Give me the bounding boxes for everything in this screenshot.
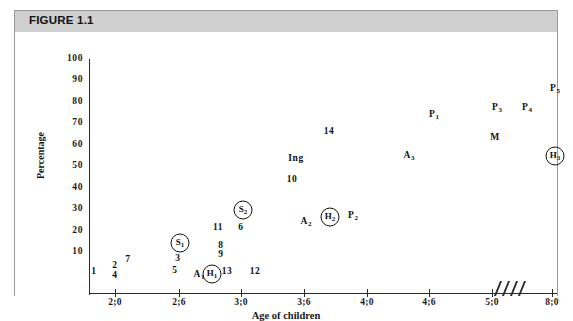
data-point-7: 7 [125,254,130,264]
data-point-P4: P4 [522,102,532,115]
data-point-8: 8 [218,240,223,250]
figure-header-band: FIGURE 1.1 [15,11,557,32]
x-tick-label-8-0: 8;0 [532,297,572,307]
data-point-H2: H2 [321,208,340,227]
data-point-13: 13 [222,266,233,276]
x-tick-mark-2-0 [115,289,116,297]
x-tick-mark-2-6 [179,289,180,297]
y-axis-line [89,59,90,295]
x-tick-label-5-0: 5;0 [472,297,512,307]
x-axis-title: Age of children [15,310,557,321]
y-tick-label-10: 10 [49,246,83,256]
axis-break-icon [493,281,527,295]
data-point-P1: P1 [429,109,439,122]
y-axis-title: Percentage [35,106,46,206]
data-point-P2: P2 [348,210,358,223]
data-point-9: 9 [218,249,223,259]
data-point-6: 6 [238,222,243,232]
plot-area: Percentage Age of children 1009080706050… [15,32,557,296]
data-point-1: 1 [91,266,96,276]
x-tick-mark-4-6 [429,289,430,297]
y-tick-label-50: 50 [49,160,83,170]
data-point-H1: H1 [203,265,222,284]
data-point-H3: H3 [546,147,565,166]
y-tick-label-40: 40 [49,182,83,192]
x-tick-mark-4-0 [367,289,368,297]
data-point-S2: S2 [234,201,253,220]
data-point-A3: A3 [404,150,415,163]
y-tick-label-20: 20 [49,225,83,235]
data-point-14: 14 [324,126,335,136]
y-tick-label-30: 30 [49,203,83,213]
y-tick-label-70: 70 [49,117,83,127]
figure-frame: FIGURE 1.1 Percentage Age of children 10… [14,10,558,296]
data-point-10: 10 [287,174,298,184]
x-tick-label-4-0: 4;0 [347,297,387,307]
x-tick-label-3-6: 3;6 [284,297,324,307]
data-point-12: 12 [250,266,261,276]
x-tick-label-2-6: 2;6 [159,297,199,307]
figure-title: FIGURE 1.1 [29,14,94,26]
data-point-2: 2 [112,260,117,270]
x-tick-label-4-6: 4;6 [409,297,449,307]
x-axis-line [89,293,557,294]
data-point-3: 3 [175,253,180,263]
data-point-P5: P5 [550,83,560,96]
data-point-P3: P3 [492,102,502,115]
x-tick-mark-8-0 [552,289,553,297]
data-point-5: 5 [172,265,177,275]
y-tick-label-80: 80 [49,96,83,106]
y-tick-label-60: 60 [49,139,83,149]
x-tick-label-3-0: 3;0 [221,297,261,307]
y-tick-label-90: 90 [49,74,83,84]
data-point-A2: A2 [301,216,312,229]
y-tick-label-100: 100 [49,53,83,63]
x-tick-label-2-0: 2;0 [95,297,135,307]
x-tick-mark-3-6 [304,289,305,297]
data-point-4: 4 [112,270,117,280]
data-point-Ing: Ing [288,153,304,163]
x-tick-mark-3-0 [241,289,242,297]
data-point-11: 11 [213,222,223,232]
data-point-S1: S1 [171,234,190,253]
data-point-M: M [490,132,500,142]
